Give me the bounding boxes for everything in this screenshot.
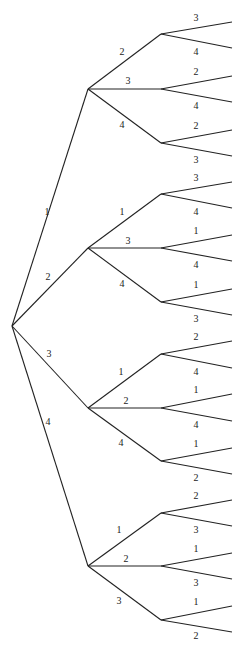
permutation-tree-diagram: 1234324423213431441331242144124123213312 [0,0,247,654]
edge-label-level2: 2 [124,553,129,564]
tree-edge-level2 [88,566,161,620]
edge-label-level2: 1 [117,524,122,535]
tree-edge-level1 [12,248,88,326]
tree-edge-level2 [88,194,161,248]
tree-edge-leaf [161,394,232,408]
tree-edge-level2 [88,89,161,143]
tree-edge-leaf [161,130,232,143]
edge-label-leaf: 2 [194,331,199,342]
edge-label-leaf: 3 [194,172,199,183]
edge-label-leaf: 2 [194,120,199,131]
tree-edge-level1 [12,89,88,326]
edge-label-level1: 3 [47,348,52,359]
edge-label-level1: 4 [46,416,51,427]
edge-label-leaf: 4 [194,366,199,377]
edge-label-leaf: 4 [194,46,199,57]
edge-label-leaf: 1 [194,225,199,236]
tree-edge-leaf [161,76,232,89]
tree-edge-leaf [161,182,232,194]
edge-label-leaf: 1 [194,384,199,395]
edge-label-leaf: 3 [194,313,199,324]
edge-label-leaf: 4 [194,206,199,217]
edge-label-level1: 2 [46,271,51,282]
edge-label-level2: 3 [117,595,122,606]
tree-edge-leaf [161,289,232,302]
edge-label-leaf: 4 [194,100,199,111]
edge-label-leaf: 3 [194,577,199,588]
tree-edge-level2 [88,248,161,302]
edge-label-leaf: 1 [194,543,199,554]
edge-label-leaf: 1 [194,279,199,290]
edge-label-level2: 3 [126,235,131,246]
tree-edge-leaf [161,448,232,461]
tree-edge-level2 [88,34,161,89]
edge-label-leaf: 3 [194,154,199,165]
edge-label-level2: 4 [120,278,125,289]
edge-label-leaf: 2 [194,472,199,483]
edge-label-leaf: 3 [194,524,199,535]
edge-label-level2: 4 [119,437,124,448]
edge-label-level1: 1 [45,206,50,217]
edge-label-level2: 4 [120,119,125,130]
edge-label-level2: 3 [126,75,131,86]
edge-label-leaf: 2 [194,66,199,77]
tree-edge-leaf [161,341,232,354]
edge-label-leaf: 2 [194,490,199,501]
tree-edge-leaf [161,500,232,513]
tree-edge-leaf [161,235,232,248]
edge-label-level2: 2 [120,46,125,57]
tree-edge-level1 [12,326,88,408]
edge-label-leaf: 1 [194,596,199,607]
edge-label-level2: 2 [124,395,129,406]
tree-edge-level1 [12,326,88,566]
tree-edge-leaf [161,553,232,566]
edge-label-leaf: 1 [194,438,199,449]
edge-label-level2: 1 [119,366,124,377]
edge-label-leaf: 2 [194,630,199,641]
tree-edge-leaf [161,22,232,34]
edge-label-leaf: 4 [194,259,199,270]
edge-label-leaf: 4 [194,419,199,430]
edge-label-leaf: 3 [194,12,199,23]
tree-edge-leaf [161,606,232,620]
edge-label-level2: 1 [120,206,125,217]
tree-edge-level2 [88,408,161,461]
